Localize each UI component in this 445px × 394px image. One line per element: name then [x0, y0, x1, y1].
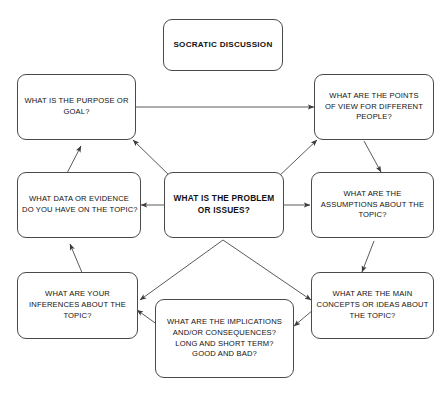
- socratic-discussion-title-box: SOCRATIC DISCUSSION: [163, 19, 283, 71]
- implications-box: WHAT ARE THE IMPLICATIONS AND/OR CONSEQU…: [155, 299, 294, 378]
- node-line: LONG AND SHORT TERM?: [160, 339, 289, 350]
- socratic-discussion-diagram: SOCRATIC DISCUSSION WHAT IS THE PURPOSE …: [0, 0, 445, 394]
- edge-assumptions-concepts: [362, 241, 374, 272]
- node-line: CONCEPTS OR IDEAS ABOUT: [316, 300, 429, 311]
- points-of-view-box: WHAT ARE THE POINTS OF VIEW FOR DIFFEREN…: [314, 74, 434, 140]
- edge-inferences-data: [70, 244, 83, 275]
- node-line: WHAT ARE THE MAIN: [316, 289, 429, 300]
- edge-points-of-view-assumptions: [364, 141, 381, 172]
- node-line: THE TOPIC?: [316, 311, 429, 322]
- node-line: PEOPLE?: [319, 112, 429, 123]
- node-line: WHAT ARE YOUR: [22, 289, 133, 300]
- node-line: INFERENCES ABOUT THE: [22, 300, 133, 311]
- edge-center-inferences: [140, 240, 223, 300]
- node-line: WHAT DATA OR EVIDENCE: [22, 194, 136, 205]
- node-line: WHAT ARE THE IMPLICATIONS: [160, 317, 289, 328]
- node-line: WHAT IS THE PROBLEM: [169, 193, 279, 205]
- main-concepts-box: WHAT ARE THE MAIN CONCEPTS OR IDEAS ABOU…: [311, 272, 434, 339]
- problem-or-issues-center-box: WHAT IS THE PROBLEM OR ISSUES?: [164, 172, 284, 238]
- node-line: TOPIC?: [316, 210, 429, 221]
- node-line: DO YOU HAVE ON THE TOPIC?: [22, 205, 136, 216]
- node-line: WHAT ARE THE: [316, 189, 429, 200]
- node-line: WHAT IS THE PURPOSE OR: [22, 96, 131, 107]
- purpose-or-goal-box: WHAT IS THE PURPOSE OR GOAL?: [17, 74, 136, 140]
- node-line: WHAT ARE THE POINTS: [319, 91, 429, 102]
- inferences-box: WHAT ARE YOUR INFERENCES ABOUT THE TOPIC…: [17, 272, 138, 339]
- node-line: SOCRATIC DISCUSSION: [168, 39, 278, 50]
- edge-center-purpose: [133, 140, 172, 178]
- node-line: ASSUMPTIONS ABOUT THE: [316, 200, 429, 211]
- node-line: GOAL?: [22, 107, 131, 118]
- assumptions-box: WHAT ARE THE ASSUMPTIONS ABOUT THE TOPIC…: [311, 172, 434, 238]
- edge-center-concepts: [223, 240, 311, 300]
- node-line: OF VIEW FOR DIFFERENT: [319, 102, 429, 113]
- node-line: OR ISSUES?: [169, 205, 279, 217]
- data-or-evidence-box: WHAT DATA OR EVIDENCE DO YOU HAVE ON THE…: [17, 172, 141, 238]
- node-line: TOPIC?: [22, 311, 133, 322]
- node-line: AND/OR CONSEQUENCES?: [160, 328, 289, 339]
- edge-center-points-of-view: [277, 140, 317, 178]
- node-line: GOOD AND BAD?: [160, 349, 289, 360]
